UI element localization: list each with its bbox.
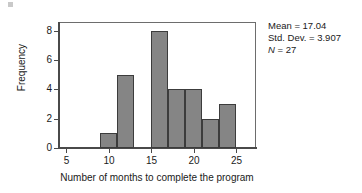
y-tick-mark	[54, 148, 58, 149]
x-tick-label: 20	[182, 155, 206, 166]
stat-n-symbol: N	[268, 44, 275, 55]
histogram-bar	[117, 75, 134, 148]
stat-mean: Mean = 17.04	[268, 20, 360, 32]
y-tick-mark	[54, 119, 58, 120]
histogram-bar	[185, 89, 202, 148]
y-tick-label: 2	[32, 114, 52, 124]
y-tick-label: 6	[32, 55, 52, 65]
y-tick-mark	[54, 60, 58, 61]
x-tick-mark	[151, 149, 152, 153]
x-tick-label: 10	[97, 155, 121, 166]
stat-n-value: = 27	[278, 44, 297, 55]
x-tick-mark	[109, 149, 110, 153]
x-axis-label: Number of months to complete the program	[28, 172, 286, 183]
y-tick-label: 4	[32, 84, 52, 94]
corner-artifact-mark	[8, 2, 13, 7]
x-tick-label: 5	[54, 155, 78, 166]
y-tick-mark	[54, 89, 58, 90]
histogram-bar	[168, 89, 185, 148]
stat-stddev: Std. Dev. = 3.907	[268, 32, 360, 44]
x-tick-mark	[194, 149, 195, 153]
histogram-bar	[219, 104, 236, 148]
stat-n: N = 27	[268, 44, 360, 56]
y-axis-label: Frequency	[16, 23, 27, 113]
x-tick-label: 15	[139, 155, 163, 166]
histogram-figure: 02468 510152025 Frequency Number of mont…	[0, 0, 362, 193]
x-tick-mark	[66, 149, 67, 153]
y-tick-label: 8	[32, 26, 52, 36]
histogram-bar	[151, 31, 168, 148]
histogram-bar	[202, 119, 219, 148]
x-tick-mark	[236, 149, 237, 153]
statistics-annotation: Mean = 17.04 Std. Dev. = 3.907 N = 27	[268, 20, 360, 56]
histogram-bar	[100, 133, 117, 148]
y-tick-label: 0	[32, 143, 52, 153]
bars-group	[58, 22, 256, 148]
y-tick-mark	[54, 31, 58, 32]
x-tick-label: 25	[224, 155, 248, 166]
